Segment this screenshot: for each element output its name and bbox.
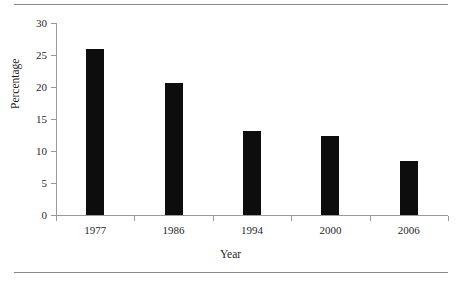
x-axis-tick [291,216,292,221]
x-axis-tick-label: 2000 [300,224,360,236]
y-axis-title: Percentage [9,79,21,109]
y-axis-tick-label: 15 [36,114,47,125]
bar [400,161,418,215]
x-axis-tick [134,216,135,221]
bar [243,131,261,215]
x-axis-title: Year [0,248,461,260]
bar [86,49,104,215]
y-axis-tick-label: 25 [36,50,47,61]
x-axis-tick-label: 1994 [222,224,282,236]
y-axis-tick-label: 10 [36,146,47,157]
y-axis-tick-label: 0 [42,210,48,221]
plot-area [56,23,448,215]
bar [321,136,339,215]
x-axis-tick-label: 2006 [379,224,439,236]
x-axis-tick-label: 1977 [65,224,125,236]
bar-chart-figure: 051015202530 19771986199420002006 Percen… [0,0,461,285]
x-axis-tick [56,216,57,221]
x-axis-spine [56,215,448,216]
y-axis-tick-label: 20 [36,82,47,93]
x-axis-tick [370,216,371,221]
x-axis-tick-label: 1986 [144,224,204,236]
bar [165,83,183,215]
x-axis-tick [448,216,449,221]
x-axis-tick [213,216,214,221]
y-axis-tick-label: 30 [36,18,47,29]
y-axis-tick-label: 5 [42,178,48,189]
